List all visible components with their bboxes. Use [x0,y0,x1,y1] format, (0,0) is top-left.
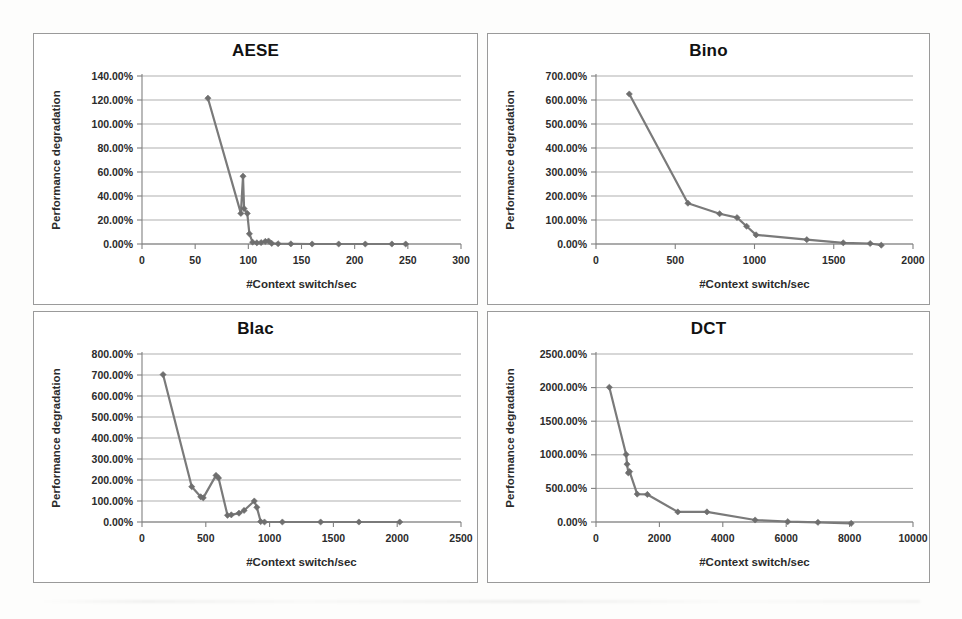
chart-title-blac: Blac [34,319,477,339]
y-tick-label: 140.00% [92,70,134,82]
data-point-marker [254,504,260,510]
y-axis-title: Performance degradation [50,90,62,229]
y-tick-label: 20.00% [97,214,133,226]
x-tick-label: 50 [189,254,201,266]
x-tick-label: 250 [399,254,417,266]
y-tick-label: 100.00% [546,214,588,226]
y-tick-label: 1500.00% [540,415,588,427]
data-point-marker [240,173,246,179]
data-point-marker [246,231,252,237]
data-point-marker [362,241,368,247]
x-tick-label: 2000 [648,532,672,544]
x-tick-label: 100 [240,254,258,266]
x-tick-label: 300 [452,254,470,266]
x-axis-title: #Context switch/sec [246,556,357,568]
data-point-marker [275,241,281,247]
x-tick-label: 4000 [711,532,735,544]
chart-title-bino: Bino [488,41,929,61]
chart-panel-aese: AESE 0.00%20.00%40.00%60.00%80.00%100.00… [33,33,478,305]
y-tick-label: 600.00% [546,94,588,106]
y-tick-label: 700.00% [546,70,588,82]
data-point-marker [309,241,315,247]
x-tick-label: 8000 [838,532,862,544]
y-tick-label: 0.00% [103,516,133,528]
y-tick-label: 0.00% [557,516,587,528]
series-line [208,98,406,244]
data-point-marker [804,237,810,243]
data-point-marker [704,509,710,515]
data-point-marker [356,519,362,525]
data-point-marker [785,519,791,525]
chart-svg-blac: 0.00%100.00%200.00%300.00%400.00%500.00%… [34,338,478,583]
y-tick-label: 200.00% [546,190,588,202]
y-tick-label: 40.00% [97,190,133,202]
chart-svg-dct: 0.00%500.00%1000.00%1500.00%2000.00%2500… [488,338,930,583]
data-point-marker [160,371,166,377]
series-line [609,387,851,523]
chart-svg-aese: 0.00%20.00%40.00%60.00%80.00%100.00%120.… [34,60,478,305]
y-axis-title: Performance degradation [504,368,516,507]
y-tick-label: 120.00% [92,94,134,106]
data-point-marker [288,241,294,247]
y-axis-title: Performance degradation [50,368,62,507]
y-tick-label: 0.00% [557,238,587,250]
y-tick-label: 2000.00% [540,381,588,393]
x-axis-title: #Context switch/sec [699,556,810,568]
x-tick-label: 200 [346,254,364,266]
x-tick-label: 1000 [258,532,282,544]
chart-grid: AESE 0.00%20.00%40.00%60.00%80.00%100.00… [0,0,962,619]
y-tick-label: 300.00% [546,166,588,178]
y-tick-label: 500.00% [546,118,588,130]
y-tick-label: 400.00% [546,142,588,154]
x-tick-label: 6000 [775,532,799,544]
series-line [629,94,881,245]
x-tick-label: 0 [593,254,599,266]
data-point-marker [840,240,846,246]
data-point-marker [717,211,723,217]
chart-panel-dct: DCT 0.00%500.00%1000.00%1500.00%2000.00%… [487,311,930,583]
chart-panel-bino: Bino 0.00%100.00%200.00%300.00%400.00%50… [487,33,930,305]
x-tick-label: 1500 [322,532,346,544]
x-tick-label: 2000 [901,254,925,266]
x-axis-title: #Context switch/sec [699,278,810,290]
y-tick-label: 500.00% [92,411,134,423]
y-tick-label: 2500.00% [540,348,588,360]
chart-title-dct: DCT [488,319,929,339]
y-axis-title: Performance degradation [504,90,516,229]
y-tick-label: 1000.00% [540,448,588,460]
data-point-marker [634,491,640,497]
y-tick-label: 0.00% [103,238,133,250]
x-tick-label: 1000 [743,254,767,266]
y-tick-label: 80.00% [97,142,133,154]
chart-panel-blac: Blac 0.00%100.00%200.00%300.00%400.00%50… [33,311,478,583]
data-point-marker [867,240,873,246]
x-tick-label: 150 [293,254,311,266]
data-point-marker [815,519,821,525]
data-point-marker [623,451,629,457]
x-tick-label: 0 [139,254,145,266]
data-point-marker [318,519,324,525]
data-point-marker [389,241,395,247]
x-tick-label: 500 [197,532,215,544]
y-tick-label: 800.00% [92,348,134,360]
data-point-marker [238,210,244,216]
x-tick-label: 10000 [898,532,927,544]
data-point-marker [336,241,342,247]
x-tick-label: 1500 [822,254,846,266]
x-axis-title: #Context switch/sec [246,278,357,290]
series-line [163,375,400,522]
y-tick-label: 700.00% [92,369,134,381]
x-tick-label: 500 [666,254,684,266]
chart-svg-bino: 0.00%100.00%200.00%300.00%400.00%500.00%… [488,60,930,305]
y-tick-label: 300.00% [92,453,134,465]
y-tick-label: 600.00% [92,390,134,402]
x-tick-label: 2000 [386,532,410,544]
y-tick-label: 100.00% [92,495,134,507]
y-tick-label: 500.00% [546,482,588,494]
data-point-marker [606,384,612,390]
data-point-marker [279,519,285,525]
chart-title-aese: AESE [34,41,477,61]
x-tick-label: 0 [139,532,145,544]
x-tick-label: 0 [593,532,599,544]
x-tick-label: 2500 [449,532,473,544]
